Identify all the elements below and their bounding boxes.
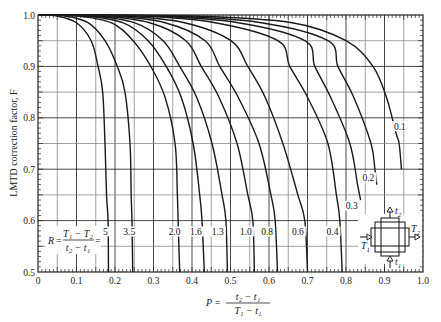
curve-label-R-0.2: 0.2 [362,173,374,183]
r-numerator: T₁ − T₂ [63,228,93,239]
x-axis-numerator: t₂ − t₁ [236,291,260,302]
x-tick-label: 0.4 [186,276,198,286]
curve-label-R-1.0: 1.0 [240,227,252,237]
curve-label-R-0.4: 0.4 [327,227,339,237]
curve-label-R-3.5: 3.5 [123,227,135,237]
x-axis-denominator: T₁ − t₁ [234,305,261,316]
lmtd-correction-chart: 00.10.20.30.40.50.60.70.80.91.00.50.60.7… [0,0,441,322]
x-axis-title: P = t₂ − t₁ T₁ − t₁ [204,291,274,319]
curve-label-R-0.3: 0.3 [346,201,358,211]
r-eq: = [56,235,62,246]
curve-label-R-1.3: 1.3 [212,227,224,237]
r-tail-eq: = [95,235,101,246]
x-tick-label: 0.5 [225,276,237,286]
curve-label-R-0.6: 0.6 [292,227,304,237]
x-tick-label: 0.7 [302,276,314,286]
heat-exchanger-schematic: T1 T2 t2 t1 [358,205,422,270]
curve-label-R-2.0: 2.0 [169,227,181,237]
y-tick-label: 0.9 [23,62,35,72]
x-tick-label: 0.3 [148,276,160,286]
r-denominator: t₂ − t₁ [66,242,90,253]
x-tick-label: 0 [36,276,41,286]
x-tick-label: 1.0 [417,276,429,286]
x-tick-label: 0.6 [263,276,275,286]
y-tick-label: 0.6 [23,216,35,226]
x-tick-label: 0.8 [340,276,352,286]
y-tick-label: 1.0 [23,11,35,21]
y-tick-label: 0.7 [23,165,35,175]
curve-label-R-0.1: 0.1 [394,122,406,132]
curve-label-R-0.8: 0.8 [261,227,273,237]
r-lhs: R [47,235,54,246]
x-tick-label: 0.1 [71,276,83,286]
x-axis-P: P [205,297,212,308]
curve-label-R-5: 5 [103,227,108,237]
r-parameter-label: R = T₁ − T₂ t₂ − t₁ = [45,226,101,254]
x-tick-label: 0.9 [379,276,391,286]
x-tick-label: 0.2 [109,276,121,286]
x-axis-eq: = [215,297,221,308]
y-tick-label: 0.5 [23,268,35,278]
y-axis-title: LMTD correction factor, F [8,89,19,197]
y-tick-label: 0.8 [23,113,35,123]
curve-label-R-1.6: 1.6 [190,227,202,237]
